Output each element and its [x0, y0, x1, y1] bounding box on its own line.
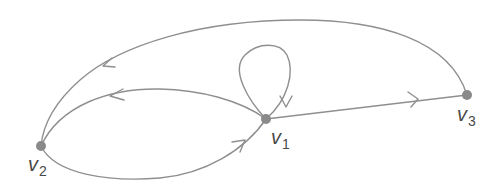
edge-v3-v2 [41, 20, 467, 146]
label-v1: v1 [271, 127, 290, 147]
label-v3: v3 [457, 104, 476, 124]
arrow-icon [408, 92, 418, 107]
label-v1-sub: 1 [282, 136, 290, 152]
node-v2[interactable] [36, 141, 46, 151]
edge-v2-v1 [41, 119, 266, 179]
arrow-icon [110, 89, 124, 100]
node-v1[interactable] [261, 114, 271, 124]
label-v3-sub: 3 [468, 113, 476, 129]
graph-canvas [0, 0, 491, 187]
label-v1-base: v [271, 126, 281, 148]
label-v2-base: v [28, 153, 38, 175]
arrow-icon [232, 140, 245, 152]
node-v3[interactable] [462, 90, 472, 100]
label-v3-base: v [457, 103, 467, 125]
label-v2-sub: 2 [39, 163, 47, 179]
arrow-icon [280, 96, 292, 107]
edge-v1-v3 [266, 92, 467, 119]
edge-v1-v2 [41, 89, 266, 146]
label-v2: v2 [28, 154, 47, 174]
